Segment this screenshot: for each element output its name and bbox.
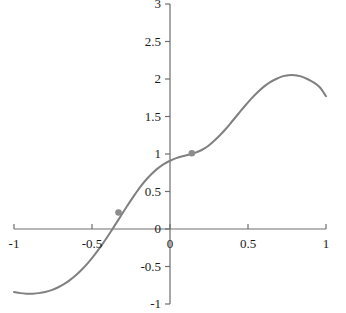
y-axis-tick-label: 1: [155, 147, 162, 160]
y-axis-tick-label: 1.5: [145, 110, 161, 123]
x-axis-tick-label: -0.5: [72, 237, 112, 250]
data-point-marker: [115, 209, 122, 216]
x-axis-tick-label: 0: [150, 237, 190, 250]
y-axis-tick-label: 2.5: [145, 35, 161, 48]
data-point-marker: [189, 150, 196, 157]
y-axis-tick-label: -1: [150, 297, 161, 310]
y-axis-tick-label: 2: [155, 72, 162, 85]
plot-area: [0, 0, 346, 313]
x-axis-tick-label: -1: [0, 237, 34, 250]
chart-container: -1-0.500.511.522.53-1-0.500.51: [0, 0, 346, 313]
y-axis-ticks: [165, 4, 170, 304]
y-axis-tick-label: -0.5: [140, 260, 161, 273]
x-axis-ticks: [14, 224, 326, 229]
x-axis-tick-label: 0.5: [228, 237, 268, 250]
y-axis-tick-label: 0.5: [145, 185, 161, 198]
y-axis-tick-label: 3: [155, 0, 162, 10]
x-axis-tick-label: 1: [306, 237, 346, 250]
y-axis-tick-label: 0: [155, 222, 162, 235]
axes-group: [14, 4, 326, 304]
